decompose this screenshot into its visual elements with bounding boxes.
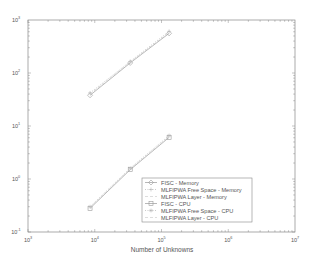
- y-tick-exponent: -1: [17, 228, 20, 232]
- legend-entry: FISC - CPU: [145, 201, 191, 207]
- x-tick-label: 103: [24, 236, 32, 243]
- legend-label: FISC - CPU: [161, 201, 191, 207]
- legend-label: MLFIPWA Layer - Memory: [161, 194, 227, 200]
- x-tick-exponent: 6: [230, 236, 232, 240]
- y-tick-exponent: 3: [18, 16, 20, 20]
- y-tick-label: 103: [12, 16, 20, 23]
- y-tick-exponent: 1: [18, 122, 20, 126]
- y-tick-label: 100: [12, 175, 20, 182]
- star-marker: [88, 205, 92, 209]
- log-log-chart: 10310410510610710-1100101102103 FISC - M…: [0, 0, 313, 264]
- x-tick-exponent: 3: [30, 236, 32, 240]
- x-tick-exponent: 7: [297, 236, 299, 240]
- x-tick-label: 107: [291, 236, 299, 243]
- legend-label: FISC - Memory: [161, 180, 199, 186]
- x-axis-label: Number of Unknowns: [131, 246, 194, 253]
- legend: FISC - MemoryMLFIPWA Free Space - Memory…: [142, 178, 252, 222]
- y-tick-label: 10-1: [11, 228, 21, 235]
- y-tick-label: 102: [12, 69, 20, 76]
- x-tick-label: 104: [91, 236, 99, 243]
- star-marker: [149, 209, 153, 213]
- x-tick-exponent: 5: [164, 236, 166, 240]
- legend-label: MLFIPWA Layer - CPU: [161, 215, 218, 221]
- chart-canvas: 10310410510610710-1100101102103 FISC - M…: [0, 0, 313, 264]
- series-line: [90, 33, 169, 95]
- x-tick-label: 106: [224, 236, 232, 243]
- x-tick-label: 105: [157, 236, 165, 243]
- series-line: [90, 31, 169, 93]
- series-1: [88, 29, 171, 95]
- y-tick-label: 101: [12, 122, 20, 129]
- legend-label: MLFIPWA Free Space - Memory: [161, 187, 242, 193]
- x-tick-exponent: 4: [97, 236, 99, 240]
- y-tick-exponent: 0: [18, 175, 20, 179]
- legend-label: MLFIPWA Free Space - CPU: [161, 208, 233, 214]
- series-0: [88, 31, 172, 98]
- y-tick-exponent: 2: [18, 69, 20, 73]
